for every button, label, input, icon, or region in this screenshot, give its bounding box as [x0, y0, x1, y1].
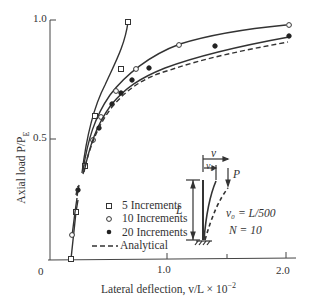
series-analytical — [76, 42, 288, 195]
x-axis-label-sup: −2 — [227, 281, 236, 290]
dashed-line-icon — [90, 243, 120, 249]
legend-label: Analytical — [120, 239, 168, 252]
open-square-icon — [96, 202, 122, 210]
y-tick-label-0.5: 0.5 — [33, 131, 47, 143]
legend: 5 Increments 10 Increments 20 Increments… — [96, 199, 187, 252]
legend-label: 5 Increments — [122, 199, 182, 212]
legend-item-10-increments: 10 Increments — [96, 212, 187, 225]
inset-l-label: L — [176, 204, 182, 216]
inset-p-label: P — [233, 168, 240, 180]
x-tick-label-2.0: 2.0 — [276, 264, 290, 276]
inset-eq-v0: v₀ = L/500 — [226, 207, 275, 219]
inset-v-label: v — [211, 147, 216, 159]
legend-item-5-increments: 5 Increments — [96, 199, 187, 212]
y-axis-label-text: Axial load P/P — [15, 137, 27, 204]
x-axis-label-text: Lateral deflection, v/L × 10 — [101, 283, 227, 295]
y-tick-label-1.0: 1.0 — [33, 12, 47, 24]
legend-label: 20 Increments — [122, 226, 187, 239]
inset-v0-label: v₀ — [206, 160, 214, 171]
open-circle-icon — [96, 215, 122, 223]
x-tick-label-0: 0 — [38, 265, 44, 277]
y-axis-label-sub: E — [22, 132, 31, 137]
legend-item-analytical: Analytical — [96, 239, 187, 252]
inset-eq-n: N = 10 — [229, 224, 262, 236]
chart-canvas — [0, 0, 313, 305]
x-axis-label: Lateral deflection, v/L × 10−2 — [101, 281, 236, 295]
x-tick-label-1.0: 1.0 — [157, 263, 171, 275]
filled-circle-icon — [96, 228, 122, 236]
legend-item-20-increments: 20 Increments — [96, 226, 187, 239]
x-axis — [48, 258, 296, 260]
y-axis-label: Axial load P/PE — [15, 103, 30, 233]
series-20-increments — [77, 37, 289, 196]
